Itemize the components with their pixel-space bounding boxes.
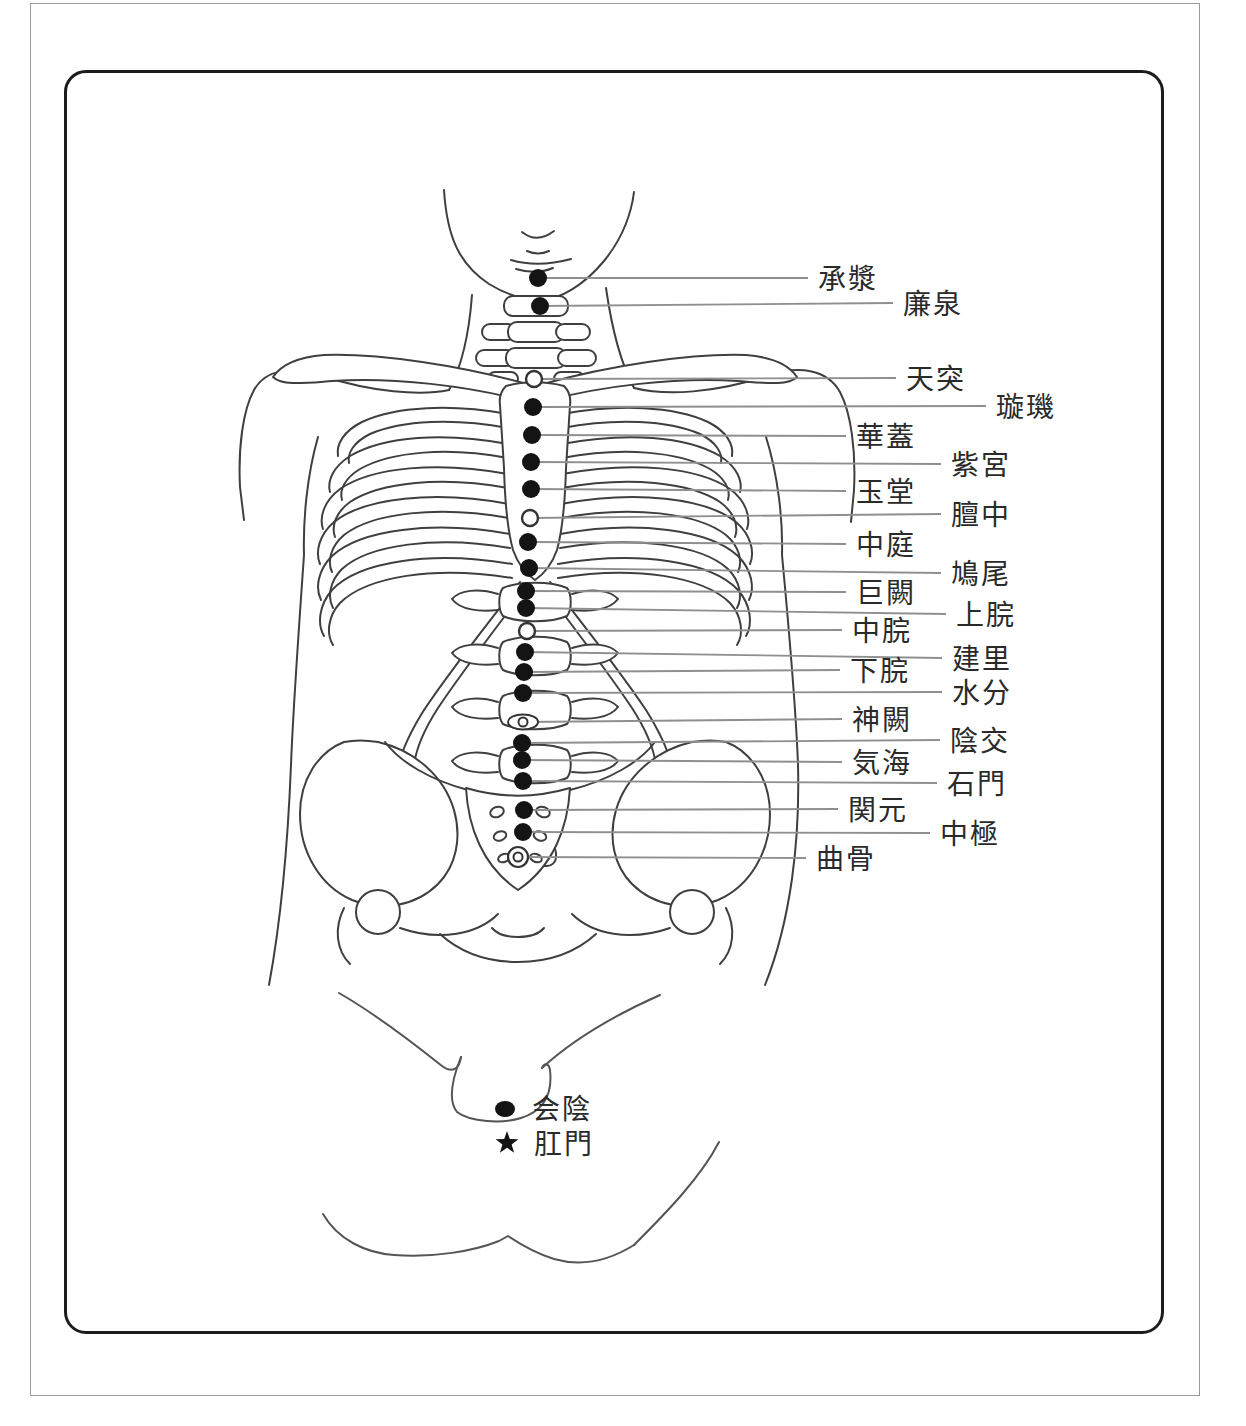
legend-markers [495, 1101, 518, 1153]
acupoint-marker-6 [522, 480, 540, 498]
upper-lip-line [527, 251, 549, 254]
lower-body-outline [323, 993, 719, 1262]
acupoint-marker-0 [529, 269, 547, 287]
scanned-book-page: { "colors": { "line_art": "#3f3f3f", "le… [0, 0, 1246, 1426]
leader-line-19 [523, 781, 937, 783]
acupoint-marker-15 [514, 684, 532, 702]
acupoint-marker-10 [517, 582, 535, 600]
legend-marker-0 [495, 1101, 515, 1117]
leader-line-1 [540, 303, 893, 306]
leader-line-21 [523, 832, 930, 833]
acupoint-marker-2 [526, 371, 542, 387]
acupoint-marker-9 [520, 559, 538, 577]
acupoint-marker-5 [522, 453, 540, 471]
acupoint-marker-13 [516, 643, 534, 661]
leader-line-22 [518, 857, 806, 858]
leader-line-9 [529, 568, 941, 573]
acupoint-marker-19 [514, 772, 532, 790]
leader-line-6 [531, 489, 846, 491]
acupoint-marker-8 [519, 533, 537, 551]
legend-marker-1 [496, 1131, 519, 1153]
leader-line-20 [524, 809, 838, 810]
leader-line-16 [523, 719, 842, 722]
acupoint-marker-7 [522, 510, 538, 526]
leader-line-4 [532, 435, 846, 436]
leader-line-17 [522, 740, 940, 743]
acupoint-marker-1 [531, 297, 549, 315]
acupoint-marker-11 [517, 599, 535, 617]
leader-line-15 [523, 692, 942, 693]
acupoint-marker-22 [508, 847, 528, 867]
leader-line-5 [531, 462, 941, 464]
acupoint-marker-20 [515, 801, 533, 819]
leader-line-12 [527, 630, 842, 631]
mouth-line [511, 259, 571, 264]
leader-line-2 [534, 378, 896, 379]
hip-joints [338, 890, 733, 964]
anatomy-diagram [0, 0, 1246, 1426]
acupoint-marker-17 [513, 734, 531, 752]
leader-line-7 [530, 514, 941, 518]
nose-line [522, 231, 554, 238]
leader-line-3 [533, 406, 986, 407]
leader-line-10 [526, 591, 846, 592]
acupoint-marker-21 [514, 823, 532, 841]
acupoint-marker-4 [523, 426, 541, 444]
acupoint-marker-12 [519, 623, 535, 639]
acupoint-marker-14 [515, 663, 533, 681]
acupoint-marker-16 [508, 715, 538, 730]
acupoint-marker-18 [513, 751, 531, 769]
acupoint-marker-3 [524, 398, 542, 416]
leader-line-8 [528, 542, 846, 544]
torso-line-art [240, 190, 855, 1262]
